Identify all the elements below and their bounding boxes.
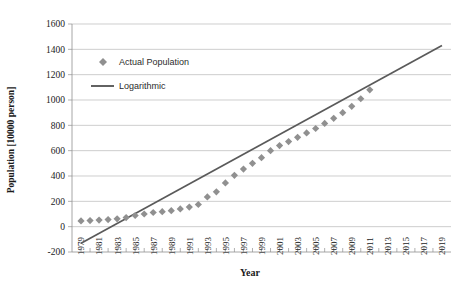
data-point-marker [104,216,111,223]
data-point-marker [77,217,84,224]
legend-label-logarithmic: Logarithmic [119,81,166,91]
chart-legend: Actual PopulationLogarithmic [91,57,189,91]
y-tick-label: 1200 [46,70,65,80]
data-point-marker [312,125,319,132]
legend-diamond-icon [99,58,107,66]
data-point-marker [303,129,310,136]
y-tick-label: 1400 [46,45,65,55]
y-axis-title: Population [10000 person] [6,87,16,194]
data-point-marker [249,160,256,167]
data-point-marker [267,147,274,154]
gridlines-group [72,24,451,227]
data-point-marker [168,207,175,214]
data-point-marker [204,193,211,200]
data-point-marker [348,103,355,110]
y-axis-ticks-group: 16001400120010008006004002000-200 [46,19,72,257]
data-point-marker [213,188,220,195]
y-tick-label: -200 [48,247,66,257]
data-point-marker [240,165,247,172]
y-tick-label: 200 [51,197,66,207]
chart-canvas: 16001400120010008006004002000-200 197919… [0,0,469,283]
data-point-marker [141,210,148,217]
data-point-marker [222,179,229,186]
data-point-marker [195,201,202,208]
data-point-marker [86,217,93,224]
data-point-marker [339,109,346,116]
data-point-marker [159,208,166,215]
data-point-marker [285,138,292,145]
data-point-marker [294,134,301,141]
data-point-marker [95,216,102,223]
y-tick-label: 1600 [46,19,65,29]
y-tick-label: 1000 [46,95,65,105]
data-point-marker [231,172,238,179]
data-point-marker [276,142,283,149]
data-point-marker [150,209,157,216]
data-point-marker [258,154,265,161]
data-point-marker [330,115,337,122]
data-point-marker [186,203,193,210]
y-tick-label: 400 [51,171,66,181]
data-point-marker [177,205,184,212]
y-tick-label: 0 [60,222,65,232]
legend-label-actual-population: Actual Population [119,57,189,67]
data-point-marker [321,120,328,127]
y-tick-label: 800 [51,121,66,131]
population-chart: 16001400120010008006004002000-200 197919… [0,0,469,283]
y-tick-label: 600 [51,146,66,156]
data-point-marker [357,95,364,102]
x-axis-title: Year [240,267,261,278]
